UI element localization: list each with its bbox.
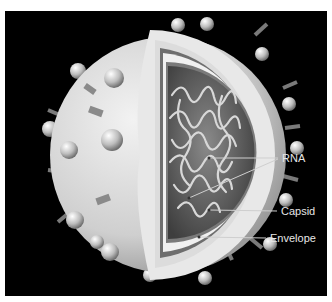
virus-illustration	[0, 0, 332, 302]
label-capsid: Capsid	[281, 205, 315, 217]
label-rna: RNA	[282, 152, 305, 164]
label-envelope: Envelope	[270, 232, 316, 244]
